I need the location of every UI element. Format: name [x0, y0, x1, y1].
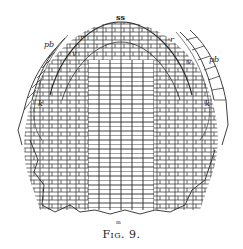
label-r-left: r: [80, 34, 84, 42]
label-k-right: k: [205, 100, 210, 108]
label-pb-right: pb: [209, 56, 219, 64]
label-k-left: k: [38, 100, 43, 108]
figure-caption: Fig. 9.: [0, 228, 243, 241]
label-r-right: r: [170, 36, 174, 44]
label-v-left: v: [72, 50, 77, 58]
label-bottom: m: [116, 220, 121, 225]
label-v-right: v: [187, 58, 192, 66]
root-tip-illustration: [0, 0, 243, 249]
tissue-body: [0, 0, 243, 249]
label-pb-left: pb: [44, 41, 54, 49]
label-apex: ss: [116, 13, 125, 21]
